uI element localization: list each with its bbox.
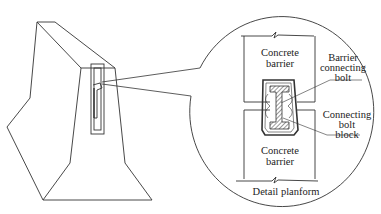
concrete-barrier-3d [7, 22, 152, 200]
diagram-canvas: Concrete barrier Barrier connecting bolt… [0, 0, 381, 214]
label-concrete-barrier-top-line2: barrier [266, 58, 294, 69]
label-barrier-connecting-bolt-line3: bolt [335, 72, 351, 83]
barrier-detail-diagram: Concrete barrier Barrier connecting bolt… [0, 0, 381, 214]
label-connecting-bolt-block-line3: block [335, 129, 359, 140]
label-concrete-barrier-top-line1: Concrete [261, 47, 299, 58]
barrier-connecting-bolt [270, 86, 289, 129]
label-concrete-barrier-bottom-line1: Concrete [261, 145, 299, 156]
label-detail-planform: Detail planform [253, 186, 320, 197]
label-concrete-barrier-bottom-line2: barrier [266, 156, 294, 167]
